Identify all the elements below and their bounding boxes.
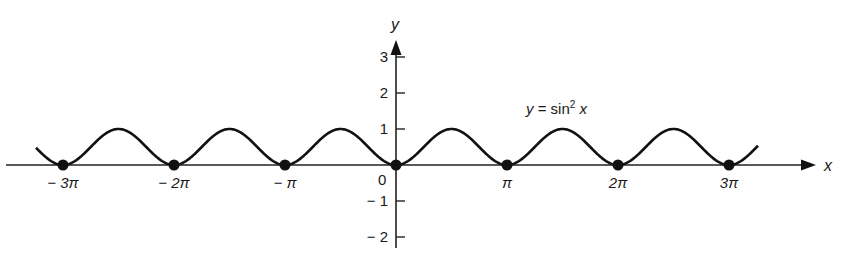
zero-marker	[391, 160, 402, 171]
y-ticks: 321− 1− 2	[367, 48, 405, 245]
y-axis-arrow-icon	[391, 40, 402, 55]
x-tick-label: − 2π	[158, 174, 190, 191]
zero-marker	[502, 160, 513, 171]
zero-marker	[280, 160, 291, 171]
x-axis-label: x	[823, 157, 833, 174]
origin-label: 0	[378, 171, 386, 188]
x-tick-label: − π	[274, 174, 298, 191]
y-tick-label: 2	[380, 84, 388, 101]
x-ticks: − 3π− 2π− ππ2π3π	[47, 174, 739, 191]
x-axis: x	[6, 157, 833, 174]
x-tick-label: 3π	[720, 174, 739, 191]
y-tick-label: 3	[380, 48, 388, 65]
x-tick-label: 2π	[608, 174, 628, 191]
zero-marker	[613, 160, 624, 171]
x-tick-label: − 3π	[47, 174, 79, 191]
y-axis-label: y	[390, 16, 400, 33]
y-tick-label: 1	[380, 120, 388, 137]
sin-squared-chart: x y 321− 1− 2 − 3π− 2π− ππ2π3π 0 y = sin…	[0, 0, 851, 268]
equation-label: y = sin2 x	[525, 99, 588, 117]
x-axis-arrow-icon	[801, 160, 816, 171]
y-tick-label: − 2	[367, 228, 388, 245]
y-tick-label: − 1	[367, 192, 388, 209]
zero-marker	[724, 160, 735, 171]
zero-marker	[58, 160, 69, 171]
zero-marker	[169, 160, 180, 171]
x-tick-label: π	[502, 174, 513, 191]
y-axis: y	[390, 16, 402, 248]
